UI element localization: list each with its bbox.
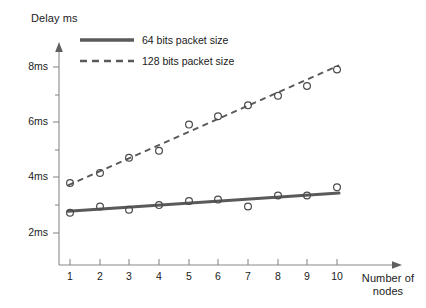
y-axis-ticks <box>53 67 59 233</box>
x-tick-label-6: 6 <box>207 270 229 282</box>
x-tick-label-8: 8 <box>267 270 289 282</box>
series-128bits <box>67 65 341 186</box>
x-tick-label-2: 2 <box>89 270 111 282</box>
x-axis-title-line1: Number of <box>362 272 414 284</box>
x-tick-label-7: 7 <box>237 270 259 282</box>
x-tick-label-4: 4 <box>148 270 170 282</box>
x-tick-label-3: 3 <box>118 270 140 282</box>
x-tick-label-1: 1 <box>59 270 81 282</box>
y-tick-label-8ms: 8ms <box>12 60 48 72</box>
series-64bits <box>67 184 341 216</box>
series-64bits-markers <box>67 184 341 216</box>
y-tick-label-6ms: 6ms <box>12 115 48 127</box>
legend-label-128bits: 128 bits packet size <box>142 55 234 67</box>
x-axis-title-line2: nodes <box>373 285 403 297</box>
legend-swatches <box>80 40 134 61</box>
x-axis-title: Number of nodes <box>355 272 421 298</box>
y-tick-label-4ms: 4ms <box>12 170 48 182</box>
delay-vs-nodes-chart: Delay ms <box>0 0 426 308</box>
legend-label-64bits: 64 bits packet size <box>142 34 228 46</box>
axis-lines <box>55 42 402 269</box>
plot-area <box>0 0 426 308</box>
y-tick-label-2ms: 2ms <box>12 226 48 238</box>
x-axis-ticks <box>70 259 337 265</box>
x-tick-label-10: 10 <box>326 270 348 282</box>
x-tick-label-5: 5 <box>178 270 200 282</box>
x-tick-label-9: 9 <box>296 270 318 282</box>
